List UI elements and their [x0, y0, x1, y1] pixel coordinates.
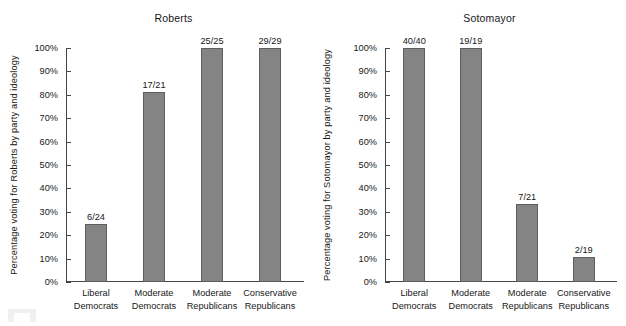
bar-value-label: 6/24: [87, 212, 105, 222]
plot-area-sotomayor: 0%10%20%30%40%50%60%70%80%90%100%40/40Li…: [385, 48, 611, 282]
x-axis-category-line: Democrats: [132, 300, 176, 313]
y-axis-tick-label-roberts: 60%: [40, 137, 58, 147]
y-axis-tick-label-sotomayor: 0%: [364, 277, 377, 287]
y-axis-title-text-sotomayor: Percentage voting for Sotomayor by party…: [322, 49, 332, 281]
x-axis-category-label: ConservativeRepublicans: [557, 287, 611, 313]
y-axis-tick-label-sotomayor: 10%: [359, 254, 377, 264]
y-axis-tick-label-sotomayor: 50%: [359, 160, 377, 170]
chart-panel-roberts: Roberts Percentage voting for Roberts by…: [0, 0, 313, 326]
bar-slot: 6/24LiberalDemocrats: [67, 48, 125, 282]
x-axis-category-line: Republicans: [557, 300, 611, 313]
y-axis-tick-label-roberts: 90%: [40, 66, 58, 76]
bar[interactable]: [259, 48, 281, 282]
x-axis-category-label: ModerateRepublicans: [502, 287, 553, 313]
bar-value-label: 40/40: [403, 36, 426, 46]
y-axis-tick-label-sotomayor: 100%: [354, 43, 378, 53]
bar-slot: 19/19ModerateDemocrats: [443, 48, 500, 282]
bar-value-label: 2/19: [575, 245, 593, 255]
plot-area-roberts: 0%10%20%30%40%50%60%70%80%90%100%6/24Lib…: [66, 48, 298, 282]
y-axis-tick-label-roberts: 10%: [40, 254, 58, 264]
y-axis-tick-label-sotomayor: 80%: [359, 90, 377, 100]
chart-title-sotomayor: Sotomayor: [313, 12, 626, 24]
bar-slot: 17/21ModerateDemocrats: [125, 48, 183, 282]
two-panel-bar-chart-figure: Roberts Percentage voting for Roberts by…: [0, 0, 626, 326]
bar-value-label: 7/21: [518, 192, 536, 202]
y-axis-tick-label-roberts: 30%: [40, 207, 58, 217]
y-axis-title-text-roberts: Percentage voting for Roberts by party a…: [9, 55, 19, 275]
y-axis-tick-sotomayor: [385, 282, 390, 283]
bar-value-label: 25/25: [201, 36, 224, 46]
x-axis-category-label: ModerateDemocrats: [132, 287, 176, 313]
x-axis-category-line: Democrats: [392, 300, 436, 313]
x-axis-category-line: Democrats: [449, 300, 493, 313]
chart-title-roberts: Roberts: [0, 12, 313, 24]
y-axis-tick-label-roberts: 0%: [45, 277, 58, 287]
x-axis-category-line: Conservative: [243, 287, 297, 300]
y-axis-tick-label-roberts: 100%: [35, 43, 59, 53]
page-corner-artifact: [8, 309, 36, 322]
x-axis-category-line: Republicans: [243, 300, 297, 313]
bar-slot: 40/40LiberalDemocrats: [386, 48, 443, 282]
y-axis-tick-label-sotomayor: 70%: [359, 113, 377, 123]
bar-slot: 29/29ConservativeRepublicans: [241, 48, 299, 282]
x-axis-category-line: Moderate: [449, 287, 493, 300]
y-axis-tick-label-roberts: 50%: [40, 160, 58, 170]
y-axis-tick-label-sotomayor: 60%: [359, 137, 377, 147]
bar-value-label: 19/19: [459, 36, 482, 46]
bar[interactable]: [403, 48, 425, 282]
x-axis-category-line: Liberal: [392, 287, 436, 300]
y-axis-tick-label-sotomayor: 30%: [359, 207, 377, 217]
y-axis-title-roberts: Percentage voting for Roberts by party a…: [6, 48, 22, 282]
bar-group-roberts: 6/24LiberalDemocrats17/21ModerateDemocra…: [67, 48, 298, 282]
x-axis-category-label: LiberalDemocrats: [392, 287, 436, 313]
y-axis-tick-label-roberts: 20%: [40, 230, 58, 240]
y-axis-tick-label-roberts: 40%: [40, 183, 58, 193]
x-axis-category-line: Moderate: [502, 287, 553, 300]
x-axis-category-label: ModerateRepublicans: [187, 287, 238, 313]
bar-slot: 7/21ModerateRepublicans: [499, 48, 556, 282]
x-axis-category-line: Moderate: [187, 287, 238, 300]
bar[interactable]: [573, 257, 595, 282]
bar[interactable]: [85, 224, 107, 283]
x-axis-category-line: Moderate: [132, 287, 176, 300]
bar-group-sotomayor: 40/40LiberalDemocrats19/19ModerateDemocr…: [386, 48, 611, 282]
x-axis-category-label: LiberalDemocrats: [74, 287, 118, 313]
y-axis-tick-label-sotomayor: 40%: [359, 183, 377, 193]
bar[interactable]: [143, 92, 165, 282]
bar[interactable]: [460, 48, 482, 282]
chart-panel-sotomayor: Sotomayor Percentage voting for Sotomayo…: [313, 0, 626, 326]
x-axis-category-line: Republicans: [187, 300, 238, 313]
bar-slot: 2/19ConservativeRepublicans: [556, 48, 613, 282]
x-axis-category-line: Liberal: [74, 287, 118, 300]
bar-slot: 25/25ModerateRepublicans: [183, 48, 241, 282]
y-axis-title-sotomayor: Percentage voting for Sotomayor by party…: [319, 48, 335, 282]
x-axis-category-label: ModerateDemocrats: [449, 287, 493, 313]
x-axis-category-line: Republicans: [502, 300, 553, 313]
bar[interactable]: [516, 204, 538, 282]
bar-value-label: 29/29: [259, 36, 282, 46]
x-axis-category-line: Democrats: [74, 300, 118, 313]
y-axis-tick-roberts: [66, 282, 71, 283]
y-axis-tick-label-sotomayor: 90%: [359, 66, 377, 76]
x-axis-category-label: ConservativeRepublicans: [243, 287, 297, 313]
y-axis-tick-label-sotomayor: 20%: [359, 230, 377, 240]
bar-value-label: 17/21: [143, 80, 166, 90]
x-axis-category-line: Conservative: [557, 287, 611, 300]
y-axis-tick-label-roberts: 70%: [40, 113, 58, 123]
y-axis-tick-label-roberts: 80%: [40, 90, 58, 100]
bar[interactable]: [201, 48, 223, 282]
